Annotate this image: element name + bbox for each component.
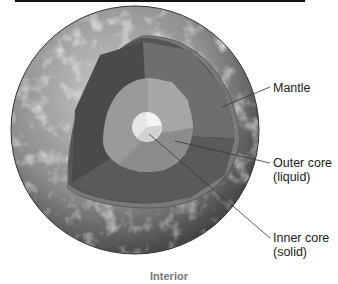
outer-core-label: Outer core [273, 156, 332, 170]
mantle-label: Mantle [273, 81, 311, 95]
figure-caption: Interior [0, 270, 338, 282]
outer-core-state-label: (liquid) [273, 170, 311, 184]
inner-core-label: Inner core [273, 231, 329, 245]
inner-core-state-label: (solid) [273, 245, 307, 259]
